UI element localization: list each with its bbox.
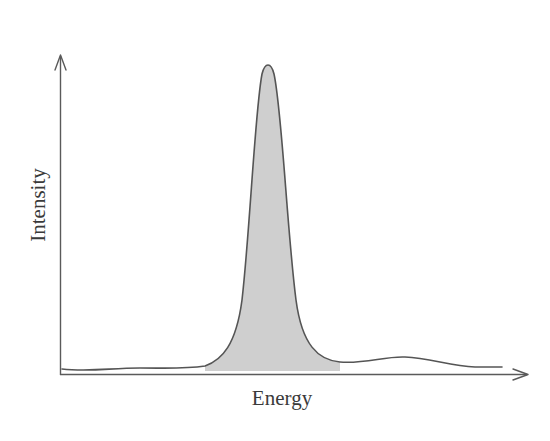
spectrum-diagram: [0, 0, 550, 441]
peak-shaded-area: [205, 65, 340, 371]
x-axis-label: Energy: [252, 386, 312, 411]
y-axis-label: Intensity: [26, 168, 51, 242]
